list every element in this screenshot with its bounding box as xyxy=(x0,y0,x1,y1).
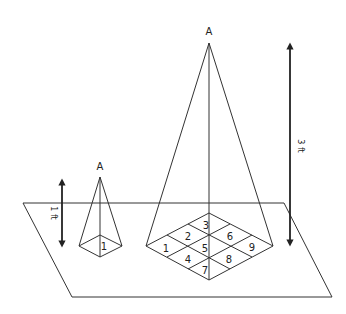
ground-plane xyxy=(23,203,332,297)
base-cell-4: 4 xyxy=(185,254,191,265)
base-cell-1: 1 xyxy=(163,243,169,254)
large-pyramid: A 1 2 3 4 5 6 7 8 9 xyxy=(146,26,273,280)
diagram-canvas: A 1 1 ft A 1 2 3 4 5 6 7 8 9 3 ft xyxy=(0,0,346,314)
base-cell-8: 8 xyxy=(226,254,232,265)
large-height-label: 3 ft xyxy=(296,139,305,152)
base-cell-6: 6 xyxy=(227,231,233,242)
large-height-dimension: 3 ft xyxy=(290,46,305,243)
base-cell-3: 3 xyxy=(203,220,209,231)
pyramids-diagram: A 1 1 ft A 1 2 3 4 5 6 7 8 9 3 ft xyxy=(0,0,346,314)
small-height-dimension: 1 ft xyxy=(49,182,62,244)
base-cell-7: 7 xyxy=(202,265,208,276)
base-cell-9: 9 xyxy=(249,242,255,253)
small-height-label: 1 ft xyxy=(49,206,58,219)
base-cell-5: 5 xyxy=(202,243,208,254)
base-cell-2: 2 xyxy=(185,231,191,242)
small-base-cell-1: 1 xyxy=(101,241,107,252)
apex-label: A xyxy=(206,26,213,37)
small-apex-label: A xyxy=(97,161,104,172)
small-pyramid: A 1 xyxy=(79,161,122,257)
